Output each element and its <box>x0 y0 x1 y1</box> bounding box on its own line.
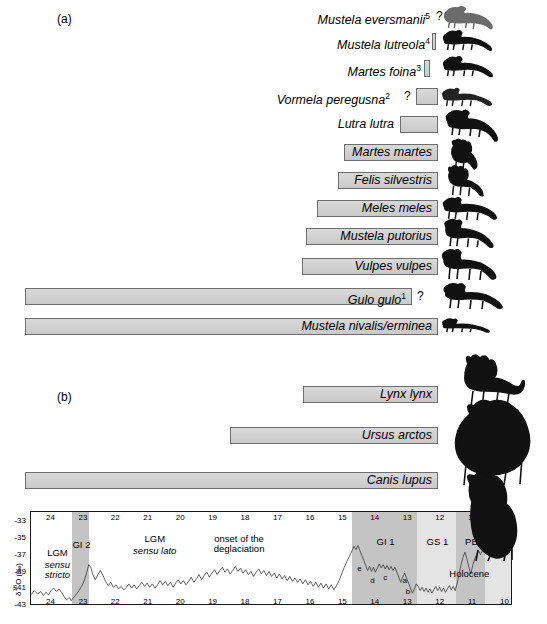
uncertainty-question-mark: ? <box>404 88 411 105</box>
band-label: GS 1 <box>425 537 449 548</box>
isotope-curve <box>31 512 511 604</box>
species-name-label: Ursus arctos <box>362 427 432 444</box>
x-tick-label: 21 <box>138 597 158 606</box>
chart-annotation: deglaciation <box>210 544 268 555</box>
vulpes-vulpes-silhouette <box>440 248 498 282</box>
species-name-label: Mustela nivalis/erminea <box>301 318 432 335</box>
meles-meles-silhouette <box>440 194 499 221</box>
species-name-label: Meles meles <box>362 200 432 217</box>
x-tick-label: 20 <box>170 513 190 522</box>
mustela-lutreola-silhouette <box>440 28 495 53</box>
x-tick-label: 14 <box>365 513 385 522</box>
sub-event-label: e <box>357 564 361 573</box>
uncertainty-question-mark: ? <box>417 288 424 305</box>
sub-event-label: c <box>383 573 387 582</box>
sub-event-label: d <box>370 576 374 585</box>
x-tick-label: 16 <box>300 597 320 606</box>
vormela-peregusna-silhouette <box>440 86 493 109</box>
species-name-label: Felis silvestris <box>354 172 432 189</box>
species-footnote-marker: 2 <box>385 91 390 101</box>
mustela-nivalis-silhouette <box>440 318 491 333</box>
species-name-label: Martes martes <box>352 144 432 161</box>
x-tick-label: 16 <box>300 513 320 522</box>
x-tick-label: 21 <box>138 513 158 522</box>
y-axis-title-rest: O (‰) <box>14 563 23 585</box>
x-tick-label: 23 <box>73 597 93 606</box>
species-name-label: Mustela eversmanii5 <box>318 8 430 25</box>
species-footnote-marker: 1 <box>401 291 406 301</box>
martes-foina-silhouette <box>440 55 495 80</box>
lutra-lutra-silhouette <box>440 108 502 142</box>
x-tick-label: 20 <box>170 597 190 606</box>
x-tick-label: 13 <box>397 513 417 522</box>
y-tick-label: -35 <box>4 533 26 542</box>
x-tick-label: 17 <box>267 597 287 606</box>
y-tick-label: -37 <box>4 550 26 559</box>
x-tick-label: 10 <box>495 597 515 606</box>
chart-annotation: stricto <box>28 570 86 581</box>
mustela-eversmanii-silhouette <box>440 2 495 31</box>
sub-event-label: b <box>406 587 410 596</box>
species-name-label: Lutra lutra <box>338 116 394 133</box>
x-tick-label: 18 <box>235 597 255 606</box>
band-label: GI 1 <box>374 537 398 548</box>
sub-event-label: a <box>403 576 407 585</box>
x-tick-label: 15 <box>332 597 352 606</box>
range-bar <box>400 116 438 133</box>
chart-annotation: Holocene <box>440 569 498 580</box>
x-tick-label: 19 <box>203 597 223 606</box>
chart-annotation: sensu lato <box>126 546 184 557</box>
felis-silvestris-silhouette <box>440 163 486 197</box>
species-footnote-marker: 3 <box>416 63 421 73</box>
x-tick-label: 15 <box>332 513 352 522</box>
species-footnote-marker: 5 <box>425 11 430 21</box>
species-name-label: Vormela peregusna2 <box>277 88 390 105</box>
species-name-label: Mustela lutreola4 <box>337 33 430 50</box>
x-tick-label: 18 <box>235 513 255 522</box>
species-name-label: Mustela putorius <box>340 228 432 245</box>
species-name-label: Lynx lynx <box>380 386 432 403</box>
x-tick-label: 22 <box>105 597 125 606</box>
y-tick-label: -33 <box>4 516 26 525</box>
ngrip-isotope-chart: LGMsensustrictoLGMsensu latoonset of the… <box>30 511 512 605</box>
x-tick-label: 13 <box>397 597 417 606</box>
x-tick-label: 24 <box>40 597 60 606</box>
x-tick-label: 19 <box>203 513 223 522</box>
x-tick-label: 12 <box>430 597 450 606</box>
y-axis-title-delta: δ <box>14 592 23 596</box>
species-name-label: Canis lupus <box>367 472 432 489</box>
x-tick-label: 12 <box>430 513 450 522</box>
canis-lupus-silhouette <box>448 470 520 562</box>
x-tick-label: 22 <box>105 513 125 522</box>
gulo-gulo-silhouette <box>440 280 504 310</box>
x-tick-label: 17 <box>267 513 287 522</box>
species-name-label: Vulpes vulpes <box>354 258 432 275</box>
range-bar <box>432 33 436 50</box>
x-tick-label: 11 <box>462 597 482 606</box>
y-axis-title-superscript: 18 <box>12 585 18 592</box>
species-footnote-marker: 4 <box>425 36 430 46</box>
x-tick-label: 24 <box>40 513 60 522</box>
band-label: GI 2 <box>69 540 93 551</box>
x-tick-label: 23 <box>73 513 93 522</box>
mustela-putorius-silhouette <box>440 218 495 249</box>
y-tick-label: -43 <box>4 600 26 609</box>
y-axis-title: δ18O (‰) <box>12 563 23 596</box>
species-name-label: Gulo gulo1 <box>348 288 406 305</box>
species-name-label: Martes foina3 <box>347 60 421 77</box>
range-bar <box>424 60 430 77</box>
range-bar <box>416 88 438 105</box>
chart-annotation: LGM <box>126 534 184 545</box>
x-tick-label: 14 <box>365 597 385 606</box>
